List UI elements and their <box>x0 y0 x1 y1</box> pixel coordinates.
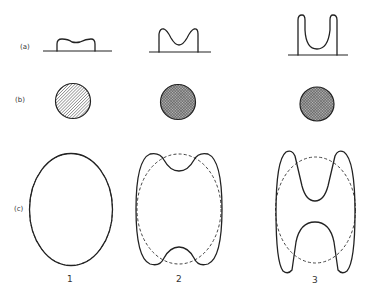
disk-2 <box>161 85 196 120</box>
column-label-2: 2 <box>176 274 182 284</box>
disk-1 <box>56 84 91 119</box>
profile-2 <box>149 29 211 52</box>
column-label-3: 3 <box>312 275 318 285</box>
outline-1 <box>30 154 113 266</box>
profile-1 <box>43 39 112 51</box>
deformation-diagram: (a) (b) (c) 1 2 3 <box>0 0 371 293</box>
disk-3 <box>300 87 334 121</box>
profile-3 <box>288 15 348 55</box>
row-label-c: (c) <box>14 205 24 213</box>
column-label-1: 1 <box>67 274 73 284</box>
row-label-a: (a) <box>20 43 30 51</box>
outline-3 <box>276 151 356 273</box>
row-label-b: (b) <box>15 96 25 104</box>
outline-2 <box>136 154 222 265</box>
